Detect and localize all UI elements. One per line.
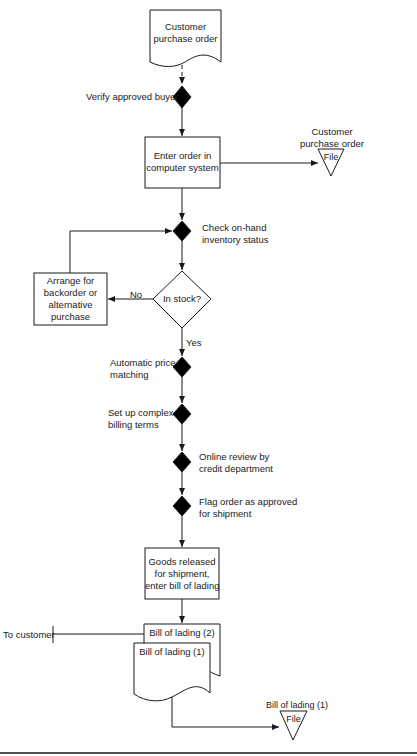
credit-review-control-diamond <box>173 452 191 472</box>
bol-file-glyph: File <box>280 713 307 725</box>
check-inventory-label: Check on-hand inventory status <box>202 222 269 246</box>
goods-released-line3: enter bill of lading <box>145 580 219 592</box>
goods-released-line1: Goods released <box>145 556 219 568</box>
flag-order-line2: for shipment <box>199 508 297 520</box>
enter-order-line1: Enter order in <box>145 150 220 162</box>
verify-buyer-label: Verify approved buyer <box>86 91 178 103</box>
bill-of-lading-1-label: Bill of lading (1) <box>136 646 208 658</box>
credit-review-line1: Online review by <box>199 451 273 463</box>
enter-order-label: Enter order in computer system <box>145 150 220 174</box>
customer-po-doc-line1: Customer <box>150 21 221 33</box>
price-matching-label: Automatic price matching <box>110 357 175 381</box>
check-inventory-line1: Check on-hand <box>202 222 269 234</box>
billing-terms-control-diamond <box>173 404 191 424</box>
to-customer-label: To customer <box>3 629 55 641</box>
price-matching-line2: matching <box>110 369 175 381</box>
arrange-line3: alternative <box>34 299 107 311</box>
bill-of-lading-2-label: Bill of lading (2) <box>146 627 218 639</box>
credit-review-line2: credit department <box>199 463 273 475</box>
goods-released-label: Goods released for shipment, enter bill … <box>145 556 219 592</box>
bol-file-caption: Bill of lading (1) <box>266 699 328 711</box>
arrange-line2: backorder or <box>34 287 107 299</box>
billing-terms-line1: Set up complex <box>108 407 173 419</box>
price-matching-line1: Automatic price <box>110 357 175 369</box>
arrange-line1: Arrange for <box>34 275 107 287</box>
arrange-line4: purchase <box>34 311 107 323</box>
check-inventory-line2: inventory status <box>202 234 269 246</box>
billing-terms-label: Set up complex billing terms <box>108 407 173 431</box>
po-file-glyph: File <box>318 151 344 163</box>
price-matching-control-diamond <box>173 357 191 377</box>
check-inventory-control-diamond <box>173 221 191 241</box>
arrange-backorder-label: Arrange for backorder or alternative pur… <box>34 275 107 323</box>
edge-yes-label: Yes <box>186 337 202 349</box>
customer-po-doc-line2: purchase order <box>150 33 221 45</box>
billing-terms-line2: billing terms <box>108 419 173 431</box>
po-file-caption-line2: purchase order <box>296 138 368 150</box>
po-file-caption-line1: Customer <box>296 126 368 138</box>
customer-po-doc-label: Customer purchase order <box>150 21 221 45</box>
flag-order-control-diamond <box>173 496 191 516</box>
in-stock-label: In stock? <box>153 293 211 305</box>
credit-review-label: Online review by credit department <box>199 451 273 475</box>
edge-no-label: No <box>130 289 142 301</box>
flowchart-canvas <box>0 0 417 756</box>
goods-released-line2: for shipment, <box>145 568 219 580</box>
po-file-caption: Customer purchase order <box>296 126 368 150</box>
flag-order-line1: Flag order as approved <box>199 496 297 508</box>
enter-order-line2: computer system <box>145 162 220 174</box>
flag-order-label: Flag order as approved for shipment <box>199 496 297 520</box>
